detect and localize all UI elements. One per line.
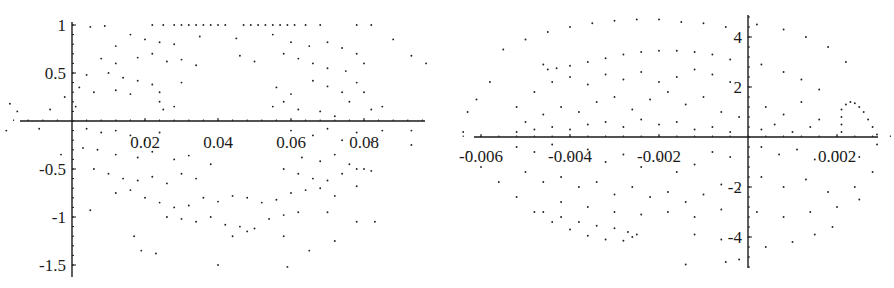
left-data-point bbox=[181, 82, 183, 84]
right-data-point bbox=[792, 241, 794, 243]
left-data-point bbox=[312, 178, 314, 180]
right-data-point bbox=[667, 191, 669, 193]
left-data-point bbox=[290, 130, 292, 132]
left-data-point bbox=[97, 149, 99, 151]
right-data-point bbox=[587, 61, 589, 63]
right-data-point bbox=[525, 39, 527, 41]
left-data-point bbox=[308, 45, 310, 47]
right-data-point bbox=[516, 131, 518, 133]
right-data-point bbox=[729, 59, 731, 61]
left-data-point bbox=[195, 64, 197, 66]
right-data-point bbox=[738, 259, 740, 261]
left-data-point bbox=[348, 101, 350, 103]
right-data-point bbox=[872, 171, 874, 173]
left-data-point bbox=[272, 34, 274, 36]
left-data-point bbox=[297, 173, 299, 175]
left-data-point bbox=[301, 157, 303, 159]
left-data-point bbox=[159, 101, 161, 103]
left-data-point bbox=[64, 96, 66, 98]
right-data-point bbox=[560, 201, 562, 203]
left-data-point bbox=[115, 192, 117, 194]
right-data-point bbox=[614, 96, 616, 98]
right-data-point bbox=[760, 129, 762, 131]
left-data-point bbox=[166, 61, 168, 63]
left-data-point bbox=[381, 130, 383, 132]
right-data-point bbox=[858, 106, 860, 108]
right-data-point bbox=[560, 106, 562, 108]
right-data-point bbox=[760, 176, 762, 178]
right-data-point bbox=[542, 181, 544, 183]
left-data-point bbox=[294, 24, 296, 26]
left-data-point bbox=[188, 155, 190, 157]
left-data-point bbox=[217, 201, 219, 203]
right-data-point bbox=[658, 19, 660, 21]
right-data-point bbox=[614, 194, 616, 196]
left-data-point bbox=[159, 202, 161, 204]
left-data-point bbox=[217, 264, 219, 266]
right-data-point bbox=[547, 31, 549, 33]
left-data-point bbox=[250, 24, 252, 26]
right-data-point bbox=[498, 181, 500, 183]
left-data-point bbox=[151, 24, 153, 26]
left-data-point bbox=[264, 24, 266, 26]
right-data-point bbox=[863, 111, 865, 113]
right-data-point bbox=[720, 184, 722, 186]
left-data-point bbox=[363, 91, 365, 93]
left-data-point bbox=[272, 106, 274, 108]
left-data-point bbox=[129, 189, 131, 191]
left-data-point bbox=[392, 38, 394, 40]
left-data-point bbox=[243, 24, 245, 26]
right-data-point bbox=[667, 211, 669, 213]
left-data-point bbox=[305, 24, 307, 26]
right-data-point bbox=[711, 151, 713, 153]
right-y-tick-label: 2 bbox=[734, 78, 743, 97]
right-data-point bbox=[658, 50, 660, 52]
left-data-point bbox=[283, 53, 285, 55]
left-data-point bbox=[334, 240, 336, 242]
left-data-point bbox=[345, 70, 347, 72]
right-data-point bbox=[756, 24, 758, 26]
left-data-point bbox=[122, 178, 124, 180]
left-data-point bbox=[254, 61, 256, 63]
left-data-point bbox=[356, 168, 358, 170]
right-data-point bbox=[587, 84, 589, 86]
right-data-point bbox=[720, 239, 722, 241]
right-data-point bbox=[569, 229, 571, 231]
left-data-point bbox=[363, 62, 365, 64]
left-data-point bbox=[202, 24, 204, 26]
right-data-point bbox=[667, 91, 669, 93]
right-data-point bbox=[631, 109, 633, 111]
left-data-point bbox=[140, 250, 142, 252]
right-data-point bbox=[738, 116, 740, 118]
left-data-point bbox=[195, 24, 197, 26]
right-data-point bbox=[649, 99, 651, 101]
right-data-point bbox=[569, 26, 571, 28]
left-x-tick-label: 0.08 bbox=[349, 133, 379, 152]
left-data-point bbox=[246, 230, 248, 232]
right-data-point bbox=[622, 54, 624, 56]
right-data-point bbox=[778, 154, 780, 156]
right-data-point bbox=[605, 161, 607, 163]
right-data-point bbox=[685, 201, 687, 203]
right-data-point bbox=[841, 124, 843, 126]
left-data-point bbox=[308, 250, 310, 252]
left-data-point bbox=[144, 38, 146, 40]
left-data-point bbox=[410, 55, 412, 57]
left-data-point bbox=[173, 106, 175, 108]
right-data-point bbox=[533, 91, 535, 93]
left-data-point bbox=[181, 24, 183, 26]
left-data-point bbox=[108, 173, 110, 175]
right-data-point bbox=[703, 96, 705, 98]
right-data-point bbox=[640, 119, 642, 121]
right-data-point bbox=[783, 216, 785, 218]
right-data-point bbox=[476, 99, 478, 101]
right-data-point bbox=[622, 154, 624, 156]
left-data-point bbox=[188, 24, 190, 26]
right-data-point bbox=[556, 67, 558, 69]
right-x-tick-label: -0.004 bbox=[548, 147, 592, 166]
left-data-point bbox=[181, 173, 183, 175]
right-data-point bbox=[725, 261, 727, 263]
right-data-point bbox=[516, 146, 518, 148]
right-data-point bbox=[631, 236, 633, 238]
right-data-point bbox=[614, 20, 616, 22]
